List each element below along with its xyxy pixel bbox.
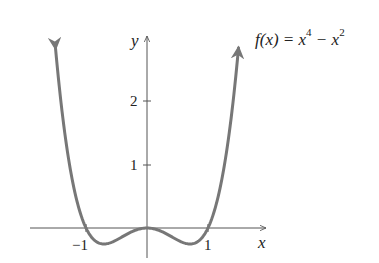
x-axis-label: x [258, 233, 266, 253]
x-tick-label-1: 1 [204, 237, 212, 254]
y-axis-label: y [131, 31, 139, 51]
function-exponent-4: 4 [306, 26, 312, 38]
function-exponent-2: 2 [339, 26, 345, 38]
x-tick-label-neg1: −1 [72, 237, 88, 254]
function-mid: − x [312, 30, 340, 49]
y-tick-label-2: 2 [130, 93, 138, 110]
y-tick-label-1: 1 [130, 157, 138, 174]
function-prefix: f(x) = x [255, 30, 306, 49]
function-label: f(x) = x4 − x2 [255, 28, 345, 50]
